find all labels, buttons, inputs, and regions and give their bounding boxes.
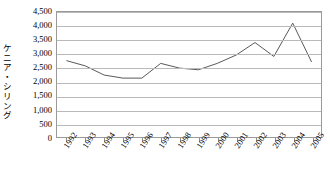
y-axis-tick-label: 3,000	[33, 49, 52, 58]
gridline	[57, 26, 321, 27]
y-axis-tick-label: 2,000	[33, 77, 52, 86]
gridline	[57, 125, 321, 126]
gridline	[57, 68, 321, 69]
y-axis-tick-labels: 05001,0001,5002,0002,5003,0003,5004,0004…	[14, 8, 54, 139]
y-axis-title-char: グ	[1, 111, 14, 121]
x-axis-tick-labels: 1992199319941995199619971998199920002001…	[56, 143, 322, 187]
plot-area	[56, 11, 322, 138]
gridline	[57, 54, 321, 55]
gridline	[57, 12, 321, 13]
line-chart: ケニア・シリング 05001,0001,5002,0002,5003,0003,…	[0, 0, 330, 189]
y-axis-tick-label: 1,500	[33, 91, 52, 100]
y-axis-tick-label: 500	[39, 120, 52, 129]
gridline	[57, 83, 321, 84]
y-axis-tick-label: 4,000	[33, 21, 52, 30]
gridline	[57, 40, 321, 41]
y-axis-tick-label: 3,500	[33, 35, 52, 44]
y-axis-tick-label: 0	[48, 134, 52, 143]
y-axis-tick-label: 2,500	[33, 63, 52, 72]
data-line	[66, 23, 311, 78]
y-axis-tick-label: 1,000	[33, 106, 52, 115]
y-axis-title: ケニア・シリング	[1, 44, 14, 121]
series-line-kenya-shilling	[57, 12, 321, 137]
gridline	[57, 97, 321, 98]
y-axis-tick-label: 4,500	[33, 7, 52, 16]
gridline	[57, 111, 321, 112]
